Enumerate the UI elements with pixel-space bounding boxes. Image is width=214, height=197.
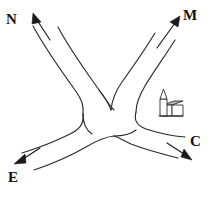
- node-label-n: N: [6, 12, 17, 27]
- direction-arrow-south-east: [167, 143, 192, 160]
- arrow-m-head: [170, 16, 180, 27]
- arrow-c-shaft: [167, 143, 184, 154]
- direction-arrow-east-north: [157, 16, 180, 48]
- junction-corner-north: [99, 90, 111, 110]
- arrow-c-head: [181, 149, 192, 160]
- road-junction-diagram: N M E C: [0, 0, 214, 197]
- road-edge-ne-right: [136, 40, 175, 112]
- junction-corner-south: [114, 130, 136, 136]
- road-edge-ne-left: [111, 33, 155, 110]
- church-nave-side: [172, 105, 183, 116]
- church-spire: [160, 89, 167, 99]
- direction-arrow-south-west: [14, 148, 40, 164]
- arrow-e-head: [14, 154, 26, 164]
- junction-corner-west: [83, 114, 92, 134]
- diagram-canvas: [0, 0, 214, 197]
- church-icon: [159, 89, 183, 116]
- church-tower: [160, 99, 167, 116]
- road-edge-sw-top: [22, 114, 83, 153]
- road-edge-se-bottom: [114, 136, 178, 158]
- road-edge-sw-bottom: [34, 136, 114, 170]
- arrow-n-head: [32, 13, 41, 24]
- road-edge-nw-left: [33, 26, 83, 114]
- node-label-e: E: [8, 170, 18, 185]
- node-label-m: M: [183, 8, 197, 23]
- direction-arrow-north: [32, 13, 50, 40]
- road-edge-nw-right: [58, 27, 114, 110]
- node-label-c: C: [190, 134, 201, 149]
